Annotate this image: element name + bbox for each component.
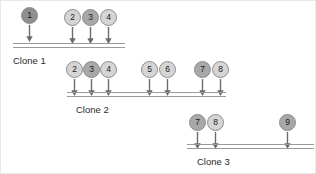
rail-line-top — [67, 92, 226, 93]
read-node-7[interactable]: 7 — [189, 114, 206, 131]
read-node-4[interactable]: 4 — [100, 9, 117, 26]
read-node-1[interactable]: 1 — [21, 7, 38, 24]
down-arrow-icon — [104, 27, 113, 44]
read-node-9[interactable]: 9 — [279, 114, 296, 131]
diagram-canvas: Clone 11234Clone 22345678Clone 3789 — [0, 0, 316, 174]
down-arrow-icon — [25, 25, 34, 42]
read-node-6[interactable]: 6 — [159, 61, 176, 78]
read-node-2[interactable]: 2 — [66, 61, 83, 78]
clone-label-2: Clone 2 — [76, 104, 109, 115]
read-node-2[interactable]: 2 — [64, 9, 81, 26]
clone-rail-3 — [187, 144, 314, 148]
read-node-3[interactable]: 3 — [82, 9, 99, 26]
rail-line-bottom — [13, 47, 125, 48]
read-node-5[interactable]: 5 — [141, 61, 158, 78]
read-node-8[interactable]: 8 — [212, 61, 229, 78]
rail-line-bottom — [67, 96, 226, 97]
read-node-4[interactable]: 4 — [100, 61, 117, 78]
down-arrow-icon — [68, 27, 77, 44]
rail-line-top — [13, 43, 125, 44]
read-node-3[interactable]: 3 — [83, 61, 100, 78]
read-node-8[interactable]: 8 — [207, 114, 224, 131]
clone-rail-2 — [67, 92, 226, 96]
rail-line-top — [187, 144, 314, 145]
read-node-7[interactable]: 7 — [194, 61, 211, 78]
clone-label-3: Clone 3 — [197, 156, 230, 167]
clone-label-1: Clone 1 — [13, 55, 46, 66]
rail-line-bottom — [187, 148, 314, 149]
down-arrow-icon — [86, 27, 95, 44]
clone-rail-1 — [13, 43, 125, 47]
